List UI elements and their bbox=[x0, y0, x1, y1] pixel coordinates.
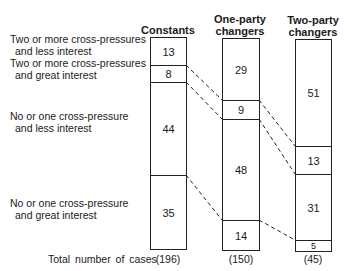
bar-segment: 35 bbox=[150, 175, 187, 250]
bar-segment: 13 bbox=[295, 146, 332, 175]
bar-segment: 31 bbox=[295, 174, 332, 241]
total-label: Total number of cases bbox=[48, 253, 157, 265]
segment-value: 51 bbox=[307, 87, 319, 99]
segment-value: 14 bbox=[235, 230, 247, 242]
segment-value: 8 bbox=[165, 68, 171, 80]
segment-value: 31 bbox=[307, 202, 319, 214]
bar-segment: 13 bbox=[150, 37, 187, 66]
segment-value: 13 bbox=[162, 46, 174, 58]
bar-segment: 51 bbox=[295, 39, 332, 147]
segment-value: 29 bbox=[235, 64, 247, 76]
bar-segment: 44 bbox=[150, 82, 187, 176]
segment-value: 48 bbox=[235, 164, 247, 176]
bar-segment: 29 bbox=[222, 38, 260, 101]
segment-value: 44 bbox=[162, 123, 174, 135]
segment-value: 9 bbox=[238, 104, 244, 116]
total-two-party: (45) bbox=[293, 253, 333, 265]
segment-value: 35 bbox=[162, 207, 174, 219]
total-one-party: (150) bbox=[221, 253, 261, 265]
bar-segment: 48 bbox=[222, 119, 260, 221]
bar-segment: 14 bbox=[222, 220, 260, 251]
bar-segment: 5 bbox=[295, 240, 332, 252]
segment-value: 13 bbox=[307, 155, 319, 167]
segment-value: 5 bbox=[311, 241, 316, 251]
bar-segment: 9 bbox=[222, 100, 260, 120]
total-constants: (196) bbox=[148, 253, 188, 265]
bar-segment: 8 bbox=[150, 65, 187, 83]
